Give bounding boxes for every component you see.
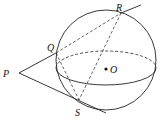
label-R: R bbox=[115, 2, 122, 13]
label-S: S bbox=[75, 107, 80, 118]
line-R-extension bbox=[121, 5, 141, 13]
chord-QS-dashed bbox=[56, 53, 79, 100]
line-PQ bbox=[19, 53, 56, 73]
diagram-canvas: P Q R S O bbox=[0, 0, 166, 121]
label-P: P bbox=[2, 68, 9, 79]
line-PS bbox=[19, 73, 106, 113]
sphere-tangent-diagram: P Q R S O bbox=[0, 0, 166, 121]
label-O: O bbox=[110, 64, 117, 75]
label-Q: Q bbox=[47, 42, 55, 53]
equator-back-dashed bbox=[56, 51, 156, 68]
sphere-outline bbox=[56, 10, 156, 110]
center-dot bbox=[104, 67, 107, 70]
